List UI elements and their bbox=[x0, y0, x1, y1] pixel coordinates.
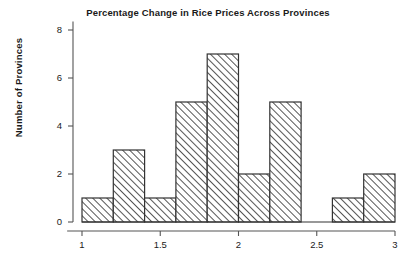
x-axis-tick-label: 1 bbox=[68, 239, 96, 250]
x-axis-tick-label: 3 bbox=[381, 239, 409, 250]
histogram-bar bbox=[207, 54, 238, 222]
histogram-bar bbox=[239, 174, 270, 222]
histogram-bar bbox=[332, 198, 363, 222]
histogram-bar bbox=[176, 102, 207, 222]
plot-area bbox=[0, 0, 416, 259]
histogram-bar bbox=[364, 174, 395, 222]
x-axis-tick-label: 2.5 bbox=[303, 239, 331, 250]
x-axis-tick-label: 1.5 bbox=[146, 239, 174, 250]
y-axis-tick-label: 0 bbox=[44, 216, 62, 227]
histogram-figure: Percentage Change in Rice Prices Across … bbox=[0, 0, 416, 259]
histogram-bar bbox=[270, 102, 301, 222]
y-axis-tick-label: 6 bbox=[44, 72, 62, 83]
histogram-bar bbox=[113, 150, 144, 222]
x-axis-tick-label: 2 bbox=[225, 239, 253, 250]
y-axis-tick-label: 2 bbox=[44, 168, 62, 179]
y-axis-tick-label: 8 bbox=[44, 24, 62, 35]
histogram-bar bbox=[145, 198, 176, 222]
y-axis-tick-label: 4 bbox=[44, 120, 62, 131]
histogram-bar bbox=[82, 198, 113, 222]
bars-group bbox=[82, 54, 395, 222]
